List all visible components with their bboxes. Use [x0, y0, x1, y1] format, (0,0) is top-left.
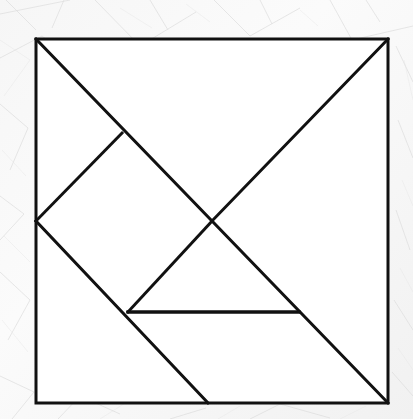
tangram-page	[0, 0, 413, 419]
tangram-diagram	[0, 0, 413, 419]
